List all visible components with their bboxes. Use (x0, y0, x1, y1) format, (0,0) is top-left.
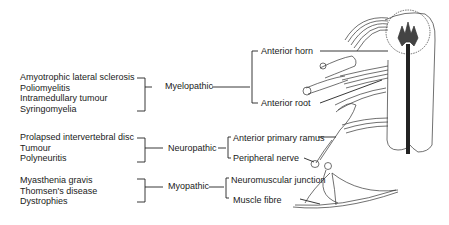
bracket-neuropathic-sites (228, 137, 231, 158)
spinal-cord-illustration (293, 10, 435, 208)
bracket-myopathic (137, 179, 145, 202)
bracket-myelopathic (137, 78, 145, 111)
diagram-lines (0, 0, 449, 225)
bracket-neuropathic (137, 138, 145, 162)
bracket-myelopathic-sites (252, 51, 258, 103)
bracket-myopathic-sites (226, 178, 229, 198)
